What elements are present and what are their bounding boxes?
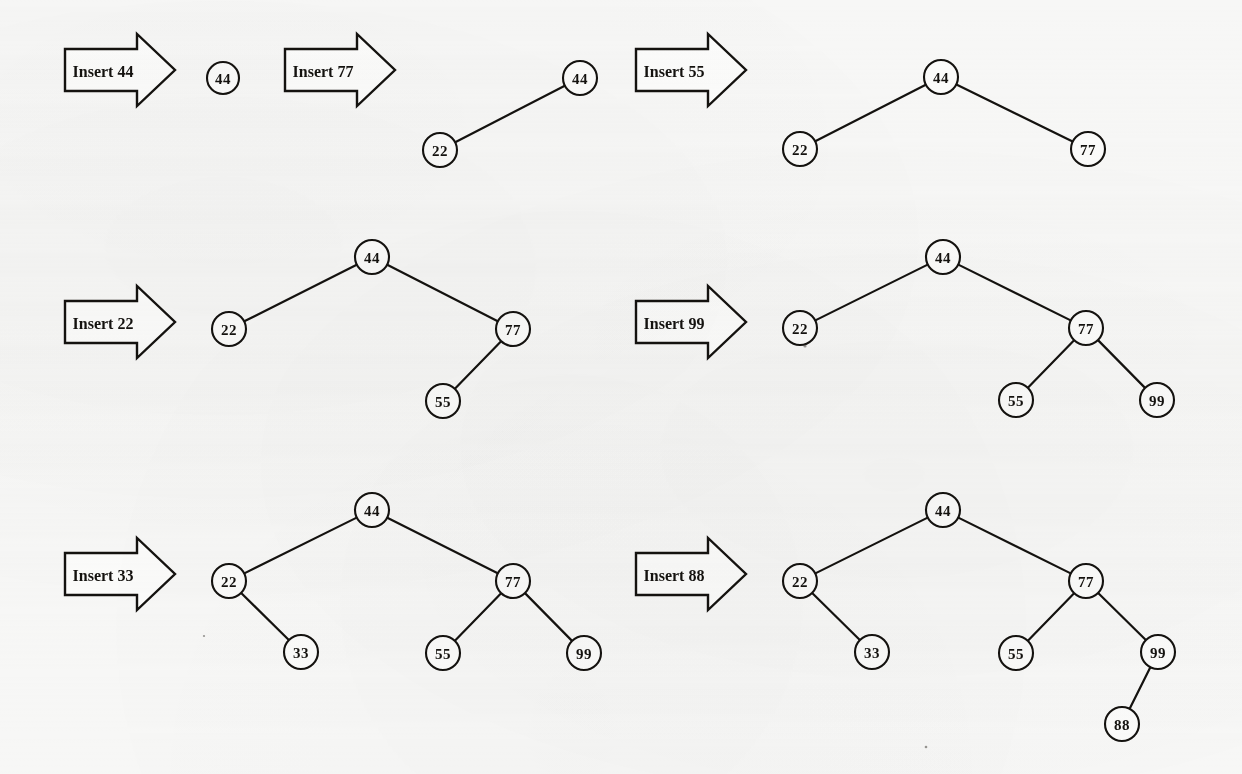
node-value-label: 77: [505, 322, 521, 338]
node-value-label: 99: [576, 646, 592, 662]
tree-edge: [1027, 592, 1075, 641]
step-insert-33: Insert 33442277335599: [65, 493, 601, 670]
paper-speck: [925, 746, 928, 749]
tree-edge: [454, 340, 502, 389]
node-value-label: 33: [293, 645, 309, 661]
step-insert-99-nodes: 4422775599: [783, 240, 1174, 417]
node-value-label: 88: [1114, 717, 1130, 733]
tree-node: 77: [1069, 564, 1103, 598]
tree-node: 77: [496, 312, 530, 346]
node-value-label: 22: [432, 143, 448, 159]
step-insert-99-arrow: Insert 99: [636, 286, 746, 358]
node-value-label: 22: [792, 574, 808, 590]
node-value-label: 55: [1008, 393, 1024, 409]
arrow-label: Insert 88: [644, 567, 705, 584]
node-value-label: 22: [792, 321, 808, 337]
tree-edge: [386, 264, 499, 321]
tree-node: 22: [783, 311, 817, 345]
tree-edge: [524, 592, 573, 641]
node-value-label: 44: [572, 71, 588, 87]
node-value-label: 44: [935, 250, 951, 266]
step-insert-88-edges: [811, 517, 1150, 710]
tree-edge: [243, 517, 357, 574]
tree-edge: [1097, 339, 1146, 388]
step-insert-99: Insert 994422775599: [636, 240, 1174, 417]
step-insert-44: Insert 4444: [65, 34, 239, 106]
node-value-label: 77: [1080, 142, 1096, 158]
tree-node: 44: [926, 240, 960, 274]
node-value-label: 44: [933, 70, 949, 86]
node-value-label: 44: [215, 71, 231, 87]
tree-edge: [1129, 666, 1151, 709]
arrow-label: Insert 44: [73, 63, 134, 80]
node-value-label: 77: [505, 574, 521, 590]
tree-node: 99: [567, 636, 601, 670]
figure-canvas: Insert 4444Insert 774422Insert 55442277I…: [0, 0, 1242, 774]
tree-node: 99: [1141, 635, 1175, 669]
tree-edge: [1027, 339, 1075, 388]
step-insert-44-arrow: Insert 44: [65, 34, 175, 106]
tree-edge: [957, 264, 1071, 321]
tree-node: 44: [355, 240, 389, 274]
tree-node: 33: [855, 635, 889, 669]
tree-edge: [811, 592, 860, 641]
tree-node: 88: [1105, 707, 1139, 741]
tree-node: 44: [355, 493, 389, 527]
tree-edge: [386, 517, 498, 574]
tree-edge: [454, 592, 502, 641]
step-insert-88: Insert 8844227733559988: [636, 493, 1175, 741]
node-value-label: 55: [1008, 646, 1024, 662]
tree-node: 55: [999, 383, 1033, 417]
tree-node: 77: [496, 564, 530, 598]
tree-edge: [243, 264, 357, 322]
node-value-label: 77: [1078, 574, 1094, 590]
tree-node: 55: [426, 636, 460, 670]
tree-node: 44: [924, 60, 958, 94]
tree-edge: [957, 517, 1071, 574]
step-insert-33-nodes: 442277335599: [212, 493, 601, 670]
step-insert-22-nodes: 44227755: [212, 240, 530, 418]
step-insert-55-arrow: Insert 55: [636, 34, 746, 106]
step-insert-44-nodes: 44: [207, 62, 239, 94]
arrow-label: Insert 22: [73, 315, 134, 332]
tree-node: 55: [426, 384, 460, 418]
arrow-label: Insert 99: [644, 315, 705, 332]
step-insert-88-arrow: Insert 88: [636, 538, 746, 610]
step-insert-88-nodes: 44227733559988: [783, 493, 1175, 741]
tree-node: 44: [563, 61, 597, 95]
tree-node: 33: [284, 635, 318, 669]
node-value-label: 22: [221, 322, 237, 338]
step-insert-77: Insert 774422: [285, 34, 597, 167]
tree-edge: [814, 84, 927, 141]
step-insert-22-arrow: Insert 22: [65, 286, 175, 358]
node-value-label: 44: [364, 503, 380, 519]
tree-edge: [1097, 592, 1146, 641]
node-value-label: 22: [221, 574, 237, 590]
tree-node: 55: [999, 636, 1033, 670]
node-value-label: 44: [935, 503, 951, 519]
tree-node: 22: [212, 312, 246, 346]
tree-node: 22: [783, 132, 817, 166]
tree-node: 99: [1140, 383, 1174, 417]
tree-edge: [454, 85, 566, 142]
step-insert-77-arrow: Insert 77: [285, 34, 395, 106]
tree-node: 22: [423, 133, 457, 167]
node-value-label: 77: [1078, 321, 1094, 337]
step-insert-77-edges: [454, 85, 566, 142]
arrow-label: Insert 33: [73, 567, 134, 584]
tree-node: 44: [207, 62, 239, 94]
tree-edge: [814, 517, 928, 574]
tree-node: 22: [212, 564, 246, 598]
tree-edge: [240, 592, 289, 641]
tree-node: 77: [1069, 311, 1103, 345]
tree-node: 44: [926, 493, 960, 527]
node-value-label: 99: [1150, 645, 1166, 661]
arrow-label: Insert 55: [644, 63, 705, 80]
node-value-label: 22: [792, 142, 808, 158]
tree-node: 22: [783, 564, 817, 598]
node-value-label: 99: [1149, 393, 1165, 409]
bst-insertion-figure: Insert 4444Insert 774422Insert 55442277I…: [0, 0, 1242, 774]
paper-speck: [803, 344, 806, 347]
node-value-label: 55: [435, 394, 451, 410]
step-insert-22-edges: [243, 264, 502, 389]
